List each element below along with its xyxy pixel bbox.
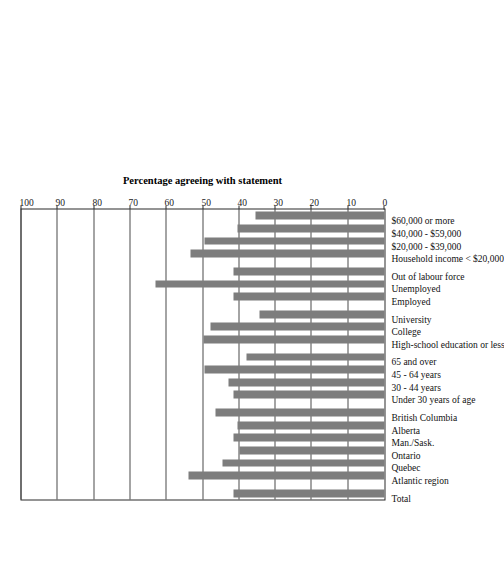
bar bbox=[237, 421, 384, 429]
bar bbox=[237, 224, 384, 232]
bar bbox=[222, 459, 384, 467]
bar-series bbox=[21, 209, 384, 499]
bar bbox=[233, 292, 384, 300]
plot-area bbox=[20, 208, 385, 500]
bar bbox=[233, 267, 384, 275]
bar bbox=[155, 280, 384, 288]
bar bbox=[190, 249, 384, 257]
bar bbox=[203, 335, 385, 343]
bar bbox=[233, 433, 384, 441]
value-tick-label: 80 bbox=[92, 197, 102, 207]
bar bbox=[215, 408, 384, 416]
bar bbox=[210, 322, 384, 330]
value-tick-label: 10 bbox=[346, 197, 356, 207]
value-tick-label: 100 bbox=[19, 197, 33, 207]
value-tick-label: 60 bbox=[164, 197, 174, 207]
bar bbox=[255, 211, 384, 219]
value-tick-label: 40 bbox=[237, 197, 247, 207]
value-tick-label: 30 bbox=[273, 197, 283, 207]
bar bbox=[228, 378, 384, 386]
value-tick-label: 90 bbox=[55, 197, 65, 207]
value-tick-label: 20 bbox=[309, 197, 319, 207]
bar bbox=[204, 365, 384, 373]
value-tick-label: 0 bbox=[382, 197, 387, 207]
bar bbox=[239, 446, 384, 454]
value-tick-label: 70 bbox=[128, 197, 138, 207]
bar bbox=[233, 489, 384, 497]
bar bbox=[246, 353, 384, 361]
bar bbox=[233, 390, 384, 398]
bar bbox=[259, 310, 384, 318]
bar bbox=[188, 471, 384, 479]
value-tick-label: 50 bbox=[201, 197, 211, 207]
bar bbox=[204, 237, 384, 245]
value-axis-title: Percentage agreeing with statement bbox=[122, 175, 281, 186]
